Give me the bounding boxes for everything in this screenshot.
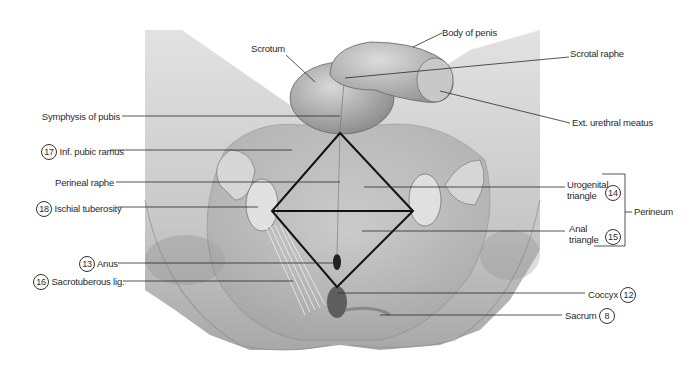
label-scrotum: Scrotum <box>251 43 285 54</box>
label-ischial-tuberosity: 18 Ischial tuberosity <box>36 201 122 217</box>
label-sacrum: Sacrum 8 <box>565 308 615 324</box>
callout-number: 16 <box>33 274 49 290</box>
label-sacrotuberous-lig: 16 Sacrotuberous lig. <box>33 274 124 290</box>
callout-number: 18 <box>36 201 52 217</box>
label-symphysis-of-pubis: Symphysis of pubis <box>42 111 120 122</box>
label-perineal-raphe: Perineal raphe <box>55 177 114 188</box>
callout-number: 14 <box>605 185 621 201</box>
label-body-of-penis: Body of penis <box>442 27 497 38</box>
label-scrotal-raphe: Scrotal raphe <box>570 48 624 59</box>
label-ext-urethral-meatus: Ext. urethral meatus <box>572 117 653 128</box>
label-anus: 13 Anus <box>79 256 118 272</box>
callout-number: 8 <box>599 308 615 324</box>
callout-number: 13 <box>79 256 95 272</box>
perineum-figure: Scrotum Body of penis Symphysis of pubis… <box>0 0 695 381</box>
callout-number: 17 <box>41 144 57 160</box>
label-anal-triangle: Anal triangle <box>569 223 599 245</box>
label-perineum: Perineum <box>634 206 673 217</box>
label-urogenital-triangle: Urogenital triangle <box>567 179 608 201</box>
callout-number: 12 <box>620 287 636 303</box>
label-coccyx: Coccyx 12 <box>588 287 636 303</box>
callout-number: 15 <box>605 229 621 245</box>
label-inf-pubic-ramus: 17 Inf. pubic ramus <box>41 144 124 160</box>
